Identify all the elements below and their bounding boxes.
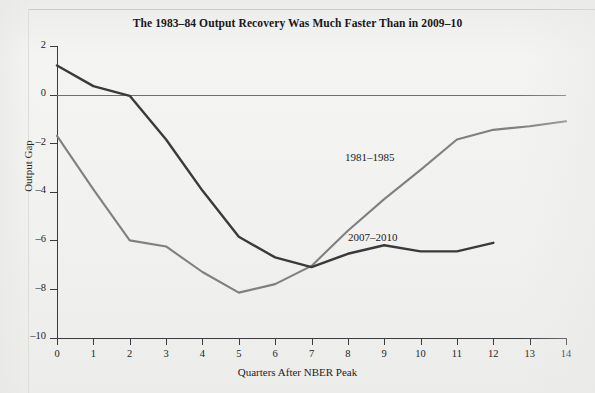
series-annotation-1981-1985: 1981–1985 [345,151,395,163]
chart-page: The 1983–84 Output Recovery Was Much Fas… [0,0,595,393]
series-line-2007-2010 [57,65,493,267]
series-annotation-2007-2010: 2007–2010 [348,231,398,243]
series-lines-layer [0,0,595,393]
